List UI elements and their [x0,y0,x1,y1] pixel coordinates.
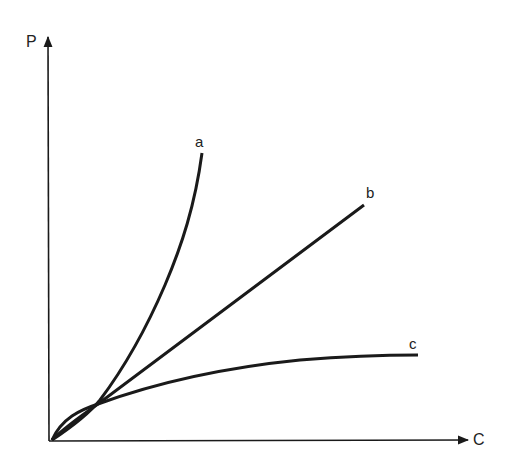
curve-a [52,153,202,440]
diagram-canvas [0,0,506,469]
x-axis [49,440,468,441]
curve-c-label: c [409,336,417,351]
y-axis [48,37,49,441]
x-axis-label: C [473,432,485,448]
curve-a-label: a [195,134,203,149]
y-axis-label: P [26,34,37,50]
curve-b-label: b [366,185,374,200]
